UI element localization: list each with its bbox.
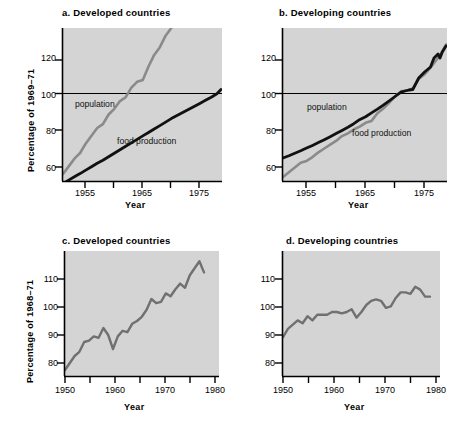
panel-a-title: a. Developed countries (62, 7, 170, 18)
panel-d-xtick-1970: 1970 (366, 385, 404, 395)
panel-c-axes (52, 247, 232, 392)
panel-a-ylabel: Percentage of 1969–71 (26, 69, 36, 172)
panel-c-title: c. Developed countries (62, 235, 170, 246)
panel-d-title: d. Developing countries (286, 235, 398, 246)
panel-a-xtick-1975: 1975 (180, 188, 218, 198)
panel-d-xtick-1980: 1980 (417, 385, 455, 395)
panel-c-xlabel: Year (124, 402, 145, 412)
panel-b-xtick-1975: 1975 (405, 188, 443, 198)
panel-b-xtick-1955: 1955 (287, 188, 325, 198)
panel-b-xlabel: Year (348, 200, 369, 210)
panel-a: a. Developed countries Percentage of 196… (0, 0, 235, 213)
panel-a-xtick-1965: 1965 (123, 188, 161, 198)
panel-d: d. Developing countries 110 100 90 80 19… (235, 213, 471, 427)
panel-d-xtick-1950: 1950 (264, 385, 302, 395)
panel-d-axes (270, 247, 455, 392)
panel-a-axes (50, 24, 230, 194)
panel-c-xtick-1980: 1980 (196, 385, 234, 395)
panel-d-xtick-1960: 1960 (315, 385, 353, 395)
panel-c-xtick-1960: 1960 (96, 385, 134, 395)
panel-a-xtick-1955: 1955 (66, 188, 104, 198)
panel-c-xtick-1970: 1970 (146, 385, 184, 395)
panel-c: c. Developed countries Percentage of 196… (0, 213, 235, 427)
four-panel-figure: a. Developed countries Percentage of 196… (0, 0, 471, 427)
panel-b: b. Developing countries 120 100 80 60 po… (235, 0, 471, 213)
panel-a-xlabel: Year (125, 200, 146, 210)
panel-b-xtick-1965: 1965 (346, 188, 384, 198)
panel-b-axes (270, 24, 455, 194)
panel-c-xtick-1950: 1950 (46, 385, 84, 395)
panel-b-title: b. Developing countries (279, 7, 391, 18)
panel-d-xlabel: Year (344, 402, 365, 412)
